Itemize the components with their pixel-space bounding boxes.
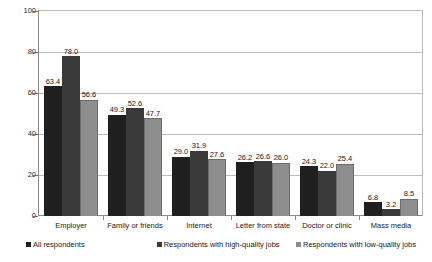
bar-group: 29.031.927.6 [167,11,231,216]
bar-value-label: 22.0 [320,162,335,170]
bar-groups: 63.478.056.649.352.647.729.031.927.626.2… [39,11,423,216]
bar[interactable] [144,118,162,216]
bar-wrapper: 56.6 [80,11,98,216]
legend-item[interactable]: All respondents [26,240,157,249]
category-label: Letter from state [231,222,295,230]
legend-swatch-icon [157,242,162,247]
bar[interactable] [318,171,336,216]
bar-value-label: 29.0 [174,148,189,156]
category-labels: EmployerFamily or friendsInternetLetter … [39,222,423,230]
bar-wrapper: 63.4 [44,11,62,216]
bar[interactable] [364,202,382,216]
bar[interactable] [80,100,98,216]
legend-label: Respondents with low-quality jobs [303,240,416,249]
bar-group: 24.322.025.4 [295,11,359,216]
legend-item[interactable]: Respondents with low-quality jobs [296,240,416,249]
x-axis-tick [103,216,104,220]
bar[interactable] [300,166,318,216]
bar-value-label: 52.6 [128,100,143,108]
bar-wrapper: 31.9 [190,11,208,216]
bar[interactable] [190,151,208,216]
x-axis-tick [295,216,296,220]
bar-value-label: 24.3 [302,158,317,166]
legend-label: All respondents [33,240,85,249]
bar-value-label: 56.6 [82,91,97,99]
legend-item[interactable]: Respondents with high-quality jobs [157,240,296,249]
bar-value-label: 6.8 [368,194,378,202]
bar-wrapper: 47.7 [144,11,162,216]
category-label: Employer [39,222,103,230]
bar-value-label: 26.0 [274,154,289,162]
legend-label: Respondents with high-quality jobs [164,240,280,249]
bar-wrapper: 25.4 [336,11,354,216]
legend-swatch-icon [296,242,301,247]
bar[interactable] [108,115,126,216]
bar[interactable] [382,209,400,216]
bar[interactable] [172,157,190,216]
chart-legend: All respondentsRespondents with high-qua… [26,240,416,249]
bar[interactable] [44,86,62,216]
bar[interactable] [208,159,226,216]
category-label: Family or friends [103,222,167,230]
bar-group: 49.352.647.7 [103,11,167,216]
bar[interactable] [126,108,144,216]
category-label: Internet [167,222,231,230]
x-axis-tick [167,216,168,220]
bar-wrapper: 26.0 [272,11,290,216]
bar-value-label: 26.2 [238,154,253,162]
bar-wrapper: 8.5 [400,11,418,216]
bar-chart: Percent 020406080100 63.478.056.649.352.… [0,0,432,262]
bar-group: 63.478.056.6 [39,11,103,216]
x-axis-tick [359,216,360,220]
bar[interactable] [272,163,290,216]
bar-group: 6.83.28.5 [359,11,423,216]
bar-wrapper: 49.3 [108,11,126,216]
bar-wrapper: 22.0 [318,11,336,216]
bar-value-label: 8.5 [404,190,414,198]
bar-wrapper: 24.3 [300,11,318,216]
bar-wrapper: 78.0 [62,11,80,216]
y-tick-mark [33,216,38,217]
bar-value-label: 49.3 [110,106,125,114]
bar[interactable] [236,162,254,216]
category-label: Doctor or clinic [295,222,359,230]
bar-wrapper: 52.6 [126,11,144,216]
x-axis-tick [231,216,232,220]
category-label: Mass media [359,222,423,230]
bar-value-label: 63.4 [46,78,61,86]
bar-wrapper: 6.8 [364,11,382,216]
bar-wrapper: 26.6 [254,11,272,216]
bar[interactable] [254,161,272,216]
bar-value-label: 78.0 [64,48,79,56]
bar-value-label: 31.9 [192,142,207,150]
bar[interactable] [400,199,418,216]
legend-swatch-icon [26,242,31,247]
bar-wrapper: 29.0 [172,11,190,216]
bar-value-label: 47.7 [146,110,161,118]
bar-value-label: 3.2 [386,201,396,209]
bar[interactable] [62,56,80,216]
bar-value-label: 27.6 [210,151,225,159]
bar-wrapper: 26.2 [236,11,254,216]
bar-group: 26.226.626.0 [231,11,295,216]
bar-value-label: 25.4 [338,155,353,163]
bar-wrapper: 27.6 [208,11,226,216]
bar-value-label: 26.6 [256,153,271,161]
bar[interactable] [336,164,354,216]
bar-wrapper: 3.2 [382,11,400,216]
